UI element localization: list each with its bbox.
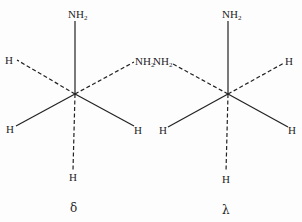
conformation-diagram: NH2 H NH2 H H H δ NH2 NH2 H H H H λ <box>0 0 302 222</box>
lambda-bond-lower-right <box>228 94 288 127</box>
delta-bond-upper-right <box>75 62 134 94</box>
lambda-lower-left-label: H <box>159 124 167 136</box>
delta-top-label: NH2 <box>68 8 88 22</box>
delta-conformer: NH2 H NH2 H H H δ <box>5 8 155 215</box>
delta-lower-left-label: H <box>6 123 14 135</box>
lambda-upper-left-label: NH2 <box>153 55 173 69</box>
delta-upper-left-label: H <box>5 54 13 66</box>
lambda-upper-right-label: H <box>285 55 293 67</box>
delta-caption: δ <box>70 201 77 215</box>
delta-lower-right-label: H <box>134 124 142 136</box>
lambda-bond-lower-left <box>168 94 228 127</box>
lambda-bond-upper-right <box>228 63 284 94</box>
lambda-bond-bottom <box>226 94 228 172</box>
delta-upper-right-label: NH2 <box>135 55 155 69</box>
lambda-bond-upper-left <box>173 64 228 94</box>
delta-bond-lower-right <box>75 94 134 126</box>
lambda-caption: λ <box>222 203 230 217</box>
delta-bond-lower-left <box>16 94 75 126</box>
lambda-top-label: NH2 <box>222 8 242 22</box>
delta-bond-bottom <box>73 94 75 170</box>
delta-bond-upper-left <box>17 60 75 94</box>
lambda-lower-right-label: H <box>288 124 296 136</box>
delta-bottom-label: H <box>69 171 77 183</box>
lambda-bottom-label: H <box>222 173 230 185</box>
lambda-conformer: NH2 NH2 H H H H λ <box>153 8 296 217</box>
diagram-svg: NH2 H NH2 H H H δ NH2 NH2 H H H H λ <box>0 0 302 222</box>
